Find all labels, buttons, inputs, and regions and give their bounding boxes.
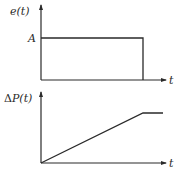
p-of-t: P(t) [11,92,32,105]
top-y-label: e(t) [10,5,30,18]
bottom-x-label: t [169,157,174,170]
ramp-signal [41,113,163,163]
delta-symbol: Δ [4,92,12,105]
diagram-canvas: e(t) A t ΔP(t) t [0,0,180,181]
bottom-plot: ΔP(t) t [4,92,174,170]
bottom-y-label: ΔP(t) [4,92,32,105]
level-a-label: A [27,32,36,45]
pulse-signal [41,38,143,80]
top-x-label: t [169,74,174,87]
top-plot: e(t) A t [10,5,174,87]
